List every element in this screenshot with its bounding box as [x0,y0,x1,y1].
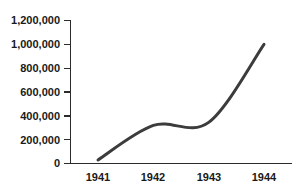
y-tick-label-400000: 400,000 [20,110,60,122]
line-chart: 1,200,000 1,000,000 800,000 600,000 400,… [0,0,299,191]
y-tick-label-200000: 200,000 [20,134,60,146]
y-tick-label-1000000: 1,000,000 [11,38,60,50]
x-tick-label-1944: 1944 [252,171,277,183]
y-tick-label-600000: 600,000 [20,86,60,98]
y-tick-label-0: 0 [54,157,60,169]
chart-canvas: 1,200,000 1,000,000 800,000 600,000 400,… [0,0,299,191]
x-tick-label-1941: 1941 [86,171,110,183]
x-tick-label-1943: 1943 [197,171,221,183]
y-tick-label-800000: 800,000 [20,62,60,74]
x-tick-label-1942: 1942 [141,171,165,183]
y-tick-label-1200000: 1,200,000 [11,14,60,26]
